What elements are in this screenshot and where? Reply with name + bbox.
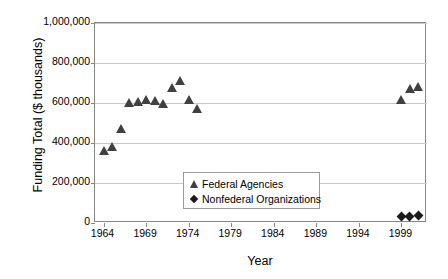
y-tick-label: 600,000 xyxy=(0,96,90,107)
data-point-marker xyxy=(396,95,406,104)
data-point-marker xyxy=(107,142,117,151)
x-tick-mark xyxy=(274,223,275,227)
triangle-marker-icon xyxy=(189,178,200,189)
data-point-marker xyxy=(192,104,202,113)
gridline xyxy=(95,143,427,144)
gridline xyxy=(95,63,427,64)
y-tick-mark xyxy=(91,183,95,184)
y-tick-label: 400,000 xyxy=(0,136,90,147)
y-axis-title: Funding Total ($ thousands) xyxy=(31,5,45,225)
legend-item-federal-agencies: Federal Agencies xyxy=(189,176,319,191)
x-tick-label: 1999 xyxy=(370,228,430,239)
y-tick-label: 1,000,000 xyxy=(0,16,90,27)
diamond-marker-icon xyxy=(189,193,200,204)
x-tick-mark xyxy=(316,223,317,227)
y-tick-mark xyxy=(91,223,95,224)
x-tick-mark xyxy=(359,223,360,227)
chart-legend: Federal Agencies Nonfederal Organization… xyxy=(183,172,320,209)
funding-scatter-chart: Funding Total ($ thousands) Year 0200,00… xyxy=(0,0,448,279)
legend-item-nonfederal-organizations: Nonfederal Organizations xyxy=(189,191,319,206)
data-point-marker xyxy=(116,124,126,133)
data-point-marker xyxy=(175,76,185,85)
x-tick-mark xyxy=(401,223,402,227)
x-tick-mark xyxy=(189,223,190,227)
data-point-marker xyxy=(414,210,424,220)
y-tick-mark xyxy=(91,143,95,144)
y-tick-label: 0 xyxy=(0,216,90,227)
x-tick-mark xyxy=(231,223,232,227)
y-tick-label: 200,000 xyxy=(0,176,90,187)
data-point-marker xyxy=(158,99,168,108)
x-tick-mark xyxy=(104,223,105,227)
data-point-marker xyxy=(413,82,423,91)
x-tick-mark xyxy=(146,223,147,227)
y-tick-mark xyxy=(91,103,95,104)
y-tick-mark xyxy=(91,63,95,64)
legend-label-federal-agencies: Federal Agencies xyxy=(202,178,283,190)
legend-label-nonfederal-organizations: Nonfederal Organizations xyxy=(202,193,321,205)
y-tick-mark xyxy=(91,23,95,24)
y-tick-label: 800,000 xyxy=(0,56,90,67)
gridline xyxy=(95,23,427,24)
data-point-marker xyxy=(184,95,194,104)
x-axis-title: Year xyxy=(94,254,426,268)
